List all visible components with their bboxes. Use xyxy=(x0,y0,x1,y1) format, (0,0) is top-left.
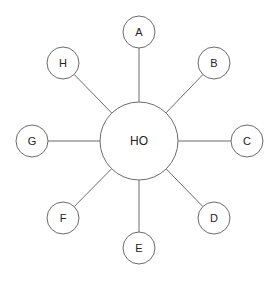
edge-ho-b xyxy=(166,75,203,113)
node-label: A xyxy=(135,26,143,38)
hub-node-ho: HO xyxy=(100,102,178,180)
node-a: A xyxy=(123,16,155,48)
node-label: F xyxy=(60,212,67,224)
node-label: C xyxy=(243,135,251,147)
node-label: B xyxy=(210,57,217,69)
star-network-diagram: HO ABCDEFGH xyxy=(0,0,276,282)
node-h: H xyxy=(47,47,79,79)
node-f: F xyxy=(47,202,79,234)
node-d: D xyxy=(198,202,230,234)
node-label: H xyxy=(59,57,67,69)
node-c: C xyxy=(231,125,263,157)
edge-ho-f xyxy=(74,169,111,207)
node-e: E xyxy=(123,232,155,264)
node-label: D xyxy=(210,212,218,224)
node-b: B xyxy=(198,47,230,79)
edge-ho-d xyxy=(166,169,203,207)
node-label: G xyxy=(28,135,37,147)
edge-ho-h xyxy=(74,74,112,113)
node-g: G xyxy=(16,125,48,157)
node-label: E xyxy=(135,242,142,254)
hub-label: HO xyxy=(130,134,148,148)
